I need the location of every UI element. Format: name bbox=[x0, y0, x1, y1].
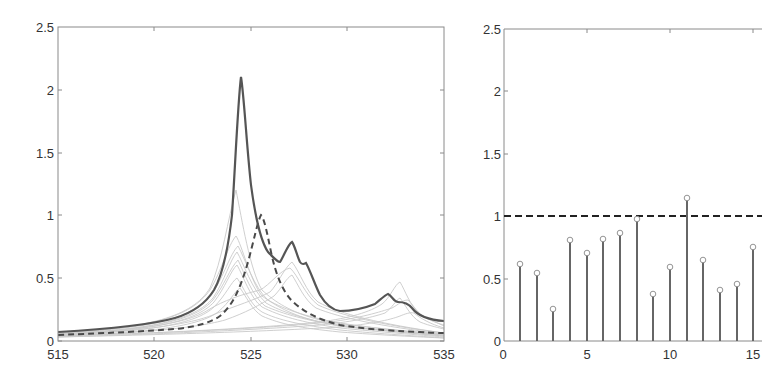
right-x-tick-0: 0 bbox=[499, 347, 506, 362]
right-y-tick-1.5: 1.5 bbox=[483, 147, 501, 162]
component-curves bbox=[58, 190, 444, 338]
right-x-tick-5: 5 bbox=[583, 347, 590, 362]
left-y-tick-2: 2 bbox=[47, 83, 54, 98]
left-chart: 0 0.5 1 1.5 2 2.5 515 520 525 530 535 bbox=[36, 20, 455, 362]
right-chart: 0 0.5 1 1.5 2 2.5 0 5 10 15 bbox=[483, 22, 762, 362]
left-x-tick-515: 515 bbox=[47, 347, 69, 362]
stems bbox=[517, 195, 756, 341]
left-y-tick-2.5: 2.5 bbox=[36, 20, 54, 35]
right-y-tick-1: 1 bbox=[494, 209, 501, 224]
left-x-tick-520: 520 bbox=[143, 347, 165, 362]
right-x-tick-10: 10 bbox=[663, 347, 677, 362]
left-x-tick-530: 530 bbox=[336, 347, 358, 362]
right-x-tick-15: 15 bbox=[746, 347, 760, 362]
left-x-tick-525: 525 bbox=[240, 347, 262, 362]
right-y-tick-2.5: 2.5 bbox=[483, 22, 501, 37]
left-x-tick-535: 535 bbox=[433, 347, 455, 362]
left-y-tick-1.5: 1.5 bbox=[36, 146, 54, 161]
figure: 0 0.5 1 1.5 2 2.5 515 520 525 530 535 bbox=[0, 0, 762, 379]
right-y-tick-0.5: 0.5 bbox=[483, 272, 501, 287]
right-y-tick-2: 2 bbox=[494, 84, 501, 99]
left-y-tick-1: 1 bbox=[47, 208, 54, 223]
left-y-tick-0.5: 0.5 bbox=[36, 271, 54, 286]
